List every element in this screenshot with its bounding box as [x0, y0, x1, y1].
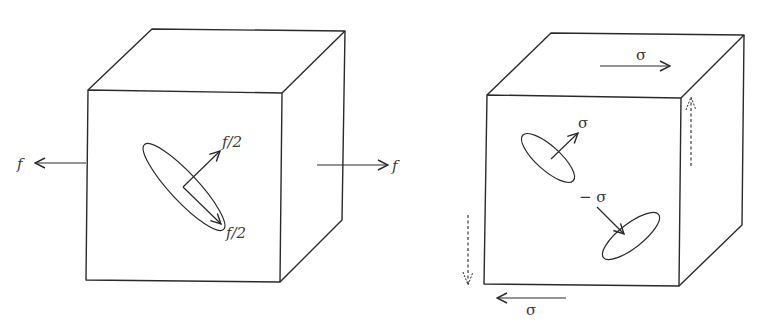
left-cube-panel: f f f/2 f/2: [16, 29, 400, 282]
shear-component-arrow: [183, 187, 221, 224]
right-cube-right-face: [679, 35, 744, 286]
compressive-stress-label: − σ: [579, 188, 607, 206]
tensile-stress-arrow: [551, 133, 578, 159]
normal-component-arrow: [183, 151, 220, 187]
tensile-plane-ellipse: [515, 126, 582, 189]
normal-component-label: f/2: [221, 133, 242, 151]
stress-diagram: f f f/2 f/2 σ σ σ: [0, 0, 765, 328]
bottom-shear-label: σ: [526, 301, 536, 319]
left-cube-top-face: [88, 29, 345, 93]
top-shear-label: σ: [636, 46, 646, 64]
left-cube-right-face: [280, 31, 345, 282]
left-force-label: f: [16, 155, 25, 173]
shear-component-label: f/2: [225, 224, 246, 242]
right-force-label-text: f: [391, 157, 400, 175]
inclined-plane-ellipse: [134, 135, 234, 239]
compressive-plane-ellipse: [596, 205, 666, 267]
right-cube-outline: [484, 33, 744, 286]
compressive-stress-arrow: [597, 207, 624, 234]
tensile-stress-label: σ: [578, 114, 588, 132]
right-cube-panel: σ σ σ − σ: [463, 33, 744, 319]
